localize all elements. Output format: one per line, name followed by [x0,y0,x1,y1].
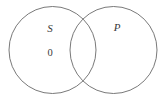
subject-term-label: S [47,23,53,34]
predicate-term-label: P [114,22,121,33]
venn-diagram-figure: S 0 P [0,0,167,102]
venn-diagram-canvas [0,0,167,102]
empty-region-marker: 0 [47,48,52,59]
